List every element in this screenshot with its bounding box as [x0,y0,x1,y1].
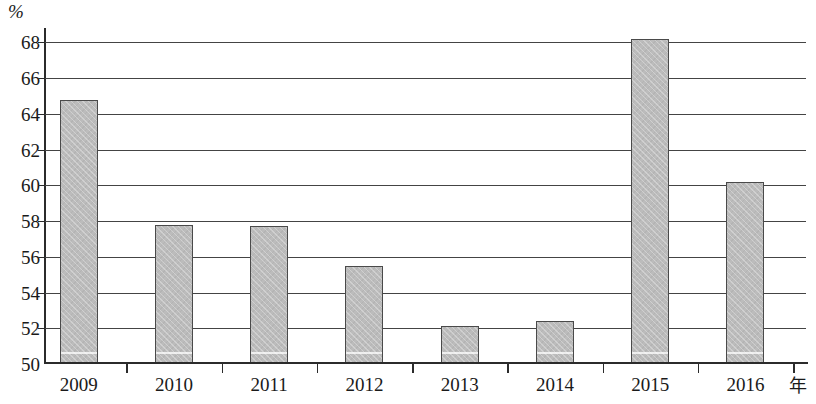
bar [631,39,669,364]
x-axis-tick-mark [507,364,509,373]
x-axis-labels: 20092010201120122013201420152016 [44,374,806,400]
y-axis-tick-mark [38,293,45,294]
gridline [44,185,806,186]
y-axis-tick-label: 64 [2,104,40,123]
x-axis-tick-label: 2011 [250,374,287,396]
y-axis-tick-mark [38,150,45,151]
y-axis-tick-mark [38,78,45,79]
bar [250,226,288,364]
y-axis-tick-mark [38,42,45,43]
x-axis-tick-mark [603,364,605,373]
y-axis-tick-label: 56 [2,247,40,266]
gridline [44,114,806,115]
bar [726,182,764,364]
x-axis-tick-label: 2015 [631,374,669,396]
y-axis-tick-mark [38,185,45,186]
x-axis-tick-label: 2016 [726,374,764,396]
x-axis-line [44,362,808,364]
x-axis-title: 年 [789,376,807,396]
y-axis-tick-label: 68 [2,33,40,52]
y-axis-tick-label: 52 [2,319,40,338]
bar [345,266,383,364]
y-axis-labels: 68666462605856545250 [0,0,40,404]
bar-chart: % 68666462605856545250 20092010201120122… [0,0,816,404]
gridline [44,221,806,222]
y-axis-tick-label: 54 [2,283,40,302]
gridline [44,150,806,151]
y-axis-tick-mark [38,328,45,329]
y-axis-tick-label: 62 [2,140,40,159]
x-axis-tick-label: 2012 [345,374,383,396]
x-axis-tick-mark [222,364,224,373]
x-axis-tick-mark [317,364,319,373]
x-axis-tick-mark [126,364,128,373]
x-axis-tick-mark [412,364,414,373]
y-axis-tick-mark [38,221,45,222]
y-axis-tick-mark [38,114,45,115]
bar [536,321,574,364]
plot-area [44,28,806,364]
x-axis-tick-label: 2014 [536,374,574,396]
y-axis-tick-label: 66 [2,69,40,88]
x-axis-tick-mark [698,364,700,373]
bar [155,225,193,364]
bar [441,326,479,364]
bar [60,100,98,365]
y-axis-tick-label: 58 [2,212,40,231]
x-axis-tick-label: 2010 [155,374,193,396]
y-axis-tick-label: 60 [2,176,40,195]
x-axis-tick-label: 2013 [441,374,479,396]
y-axis-tick-label: 50 [2,355,40,374]
x-axis-tick-mark [793,364,795,373]
gridline [44,78,806,79]
gridline [44,42,806,43]
x-axis-tick-label: 2009 [60,374,98,396]
y-axis-tick-mark [38,257,45,258]
